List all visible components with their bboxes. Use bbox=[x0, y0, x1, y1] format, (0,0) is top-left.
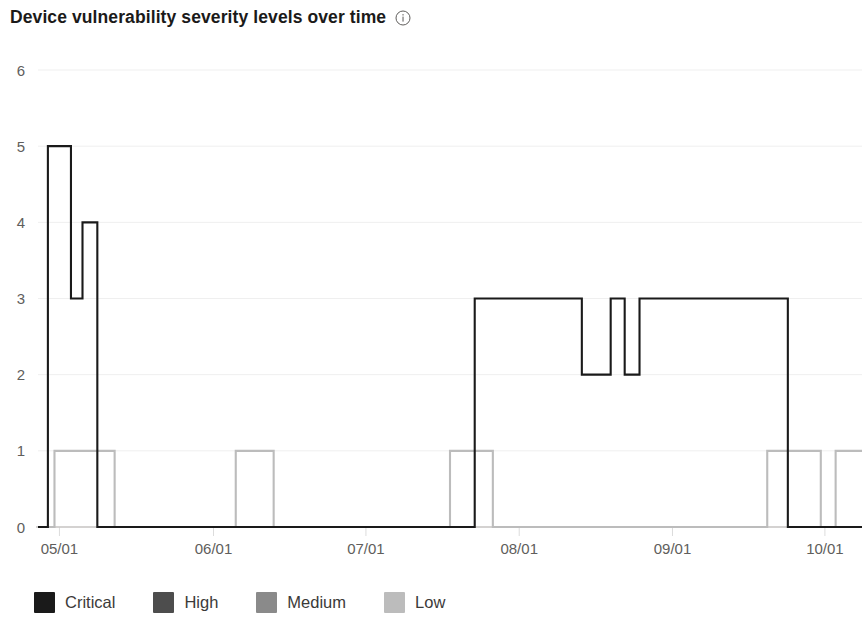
legend-swatch-low bbox=[384, 592, 405, 613]
legend-item-critical[interactable]: Critical bbox=[34, 592, 115, 613]
x-axis-tick-label: 10/01 bbox=[806, 540, 844, 557]
x-axis-tick-label: 08/01 bbox=[500, 540, 538, 557]
legend-item-label: High bbox=[184, 593, 218, 612]
y-axis-tick-label: 6 bbox=[17, 62, 25, 79]
y-axis-tick-label: 3 bbox=[17, 290, 25, 307]
legend-item-medium[interactable]: Medium bbox=[256, 592, 346, 613]
chart-header: Device vulnerability severity levels ove… bbox=[10, 4, 411, 30]
legend-swatch-critical bbox=[34, 592, 55, 613]
x-axis-tick-label: 09/01 bbox=[654, 540, 692, 557]
chart-svg: 0123456 05/0106/0107/0108/0109/0110/01 bbox=[0, 40, 862, 560]
legend-item-label: Low bbox=[415, 593, 445, 612]
series-line-low bbox=[38, 451, 862, 527]
y-axis-tick-label: 5 bbox=[17, 138, 25, 155]
chart-y-axis: 0123456 bbox=[17, 62, 25, 536]
legend-swatch-high bbox=[153, 592, 174, 613]
y-axis-tick-label: 1 bbox=[17, 442, 25, 459]
legend-swatch-medium bbox=[256, 592, 277, 613]
x-axis-tick-label: 06/01 bbox=[195, 540, 233, 557]
x-axis-tick-label: 07/01 bbox=[347, 540, 385, 557]
y-axis-tick-label: 2 bbox=[17, 366, 25, 383]
x-axis-tick-label: 05/01 bbox=[41, 540, 79, 557]
y-axis-tick-label: 4 bbox=[17, 214, 25, 231]
chart-series-group bbox=[38, 146, 862, 527]
info-circle-icon[interactable] bbox=[395, 8, 411, 26]
legend-item-low[interactable]: Low bbox=[384, 592, 445, 613]
legend-item-label: Medium bbox=[287, 593, 346, 612]
page-title: Device vulnerability severity levels ove… bbox=[10, 7, 386, 28]
chart-card: Device vulnerability severity levels ove… bbox=[0, 0, 862, 623]
chart-legend: CriticalHighMediumLow bbox=[34, 592, 483, 613]
legend-item-label: Critical bbox=[65, 593, 115, 612]
chart-x-axis: 05/0106/0107/0108/0109/0110/01 bbox=[41, 527, 844, 557]
y-axis-tick-label: 0 bbox=[17, 519, 25, 536]
chart-plot-area: 0123456 05/0106/0107/0108/0109/0110/01 bbox=[0, 40, 862, 560]
legend-item-high[interactable]: High bbox=[153, 592, 218, 613]
